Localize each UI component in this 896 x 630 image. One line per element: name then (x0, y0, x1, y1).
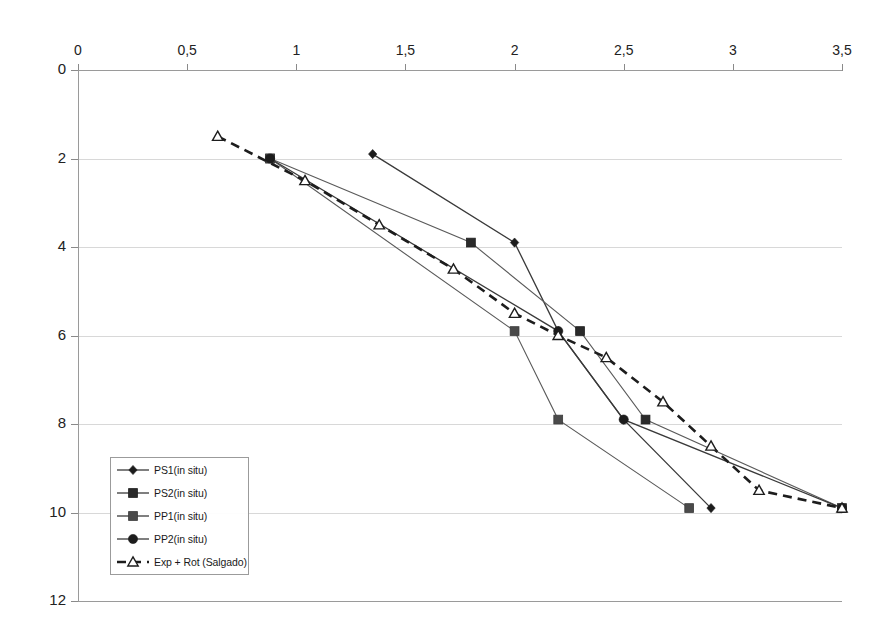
legend-label: PP2(in situ) (154, 533, 207, 545)
marker-triangle-open (213, 131, 223, 140)
series-exp-rot-salgado- (213, 131, 848, 512)
legend-item-4[interactable]: Exp + Rot (Salgado) (111, 550, 248, 573)
marker-square (685, 504, 694, 513)
marker-circle (619, 415, 628, 424)
legend: PS1(in situ)PS2(in situ)PP1(in situ)PP2(… (110, 457, 249, 575)
marker-triangle-open (706, 441, 716, 450)
legend-item-3[interactable]: PP2(in situ) (111, 527, 248, 550)
legend-label: Exp + Rot (Salgado) (154, 556, 247, 568)
marker-square (576, 327, 585, 336)
series-pp1-in-situ- (266, 154, 694, 512)
legend-swatch-triangle-open-icon (115, 555, 151, 569)
marker-square (641, 415, 650, 424)
legend-swatch-circle-icon (115, 532, 151, 546)
legend-swatch-square-icon (115, 509, 151, 523)
legend-label: PS1(in situ) (154, 464, 207, 476)
legend-item-1[interactable]: PS2(in situ) (111, 481, 248, 504)
legend-swatch-diamond-icon (115, 463, 151, 477)
chart-page: qc (MPa) Depth (m) 00,511,522,533,5 0246… (0, 0, 896, 630)
marker-square (129, 488, 138, 497)
series-line (270, 159, 689, 509)
marker-triangle-open (509, 308, 519, 317)
marker-circle (128, 534, 137, 543)
marker-square (510, 327, 519, 336)
marker-triangle-open (448, 264, 458, 273)
legend-label: PP1(in situ) (154, 510, 207, 522)
series-line (218, 136, 842, 508)
marker-circle (265, 154, 274, 163)
legend-item-2[interactable]: PP1(in situ) (111, 504, 248, 527)
series-line (373, 154, 711, 508)
legend-swatch-square-icon (115, 486, 151, 500)
marker-diamond (510, 238, 518, 247)
marker-diamond (368, 149, 376, 158)
marker-square (554, 415, 563, 424)
legend-label: PS2(in situ) (154, 487, 207, 499)
marker-diamond (129, 465, 137, 474)
marker-square (129, 511, 138, 520)
series-ps1-in-situ- (368, 149, 715, 512)
marker-square (467, 238, 476, 247)
marker-triangle-open (601, 352, 611, 361)
legend-item-0[interactable]: PS1(in situ) (111, 458, 248, 481)
